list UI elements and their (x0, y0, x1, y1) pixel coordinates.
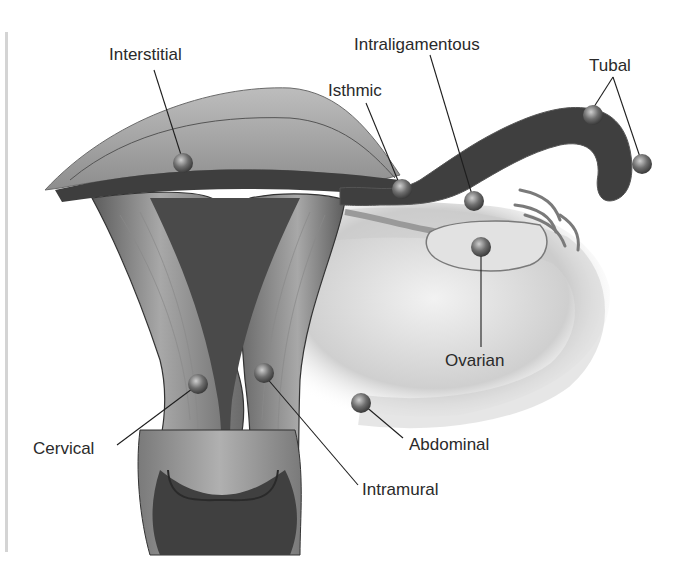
site-cervical (188, 374, 208, 394)
site-intramural (254, 363, 274, 383)
site-tubal-proximal (583, 105, 603, 125)
label-intraligamentous: Intraligamentous (354, 36, 480, 53)
label-cervical: Cervical (33, 440, 94, 457)
site-intraligamentous (464, 191, 484, 211)
site-ovarian (471, 237, 491, 257)
label-ovarian: Ovarian (445, 352, 505, 369)
label-intramural: Intramural (362, 481, 439, 498)
label-isthmic: Isthmic (328, 82, 382, 99)
site-tubal-distal (632, 154, 652, 174)
label-abdominal: Abdominal (409, 436, 489, 453)
site-isthmic (392, 179, 412, 199)
label-tubal: Tubal (589, 57, 631, 74)
site-abdominal (351, 393, 371, 413)
site-interstitial (173, 153, 193, 173)
label-interstitial: Interstitial (109, 46, 182, 63)
